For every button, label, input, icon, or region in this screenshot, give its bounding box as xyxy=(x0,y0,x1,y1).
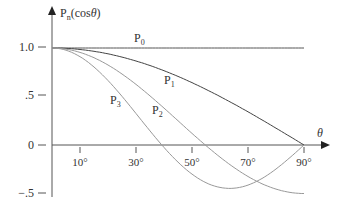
x-ticks: 10° 30° 50° 70° 90° xyxy=(72,147,311,168)
y-tick-label: .5 xyxy=(25,88,34,102)
series-p3-label: P3 xyxy=(110,93,121,109)
y-ticks: 1.0 .5 0 −.5 xyxy=(18,40,46,200)
series-p1-line xyxy=(52,48,304,145)
curves xyxy=(52,48,304,194)
y-tick-label: −.5 xyxy=(18,186,34,200)
y-tick-label: 1.0 xyxy=(19,40,34,54)
series-p0-label: P0 xyxy=(134,31,145,47)
legendre-polynomial-chart: 1.0 .5 0 −.5 10° 30° 50° 70° 90° Pn(cosθ… xyxy=(0,0,343,206)
y-tick-label: 0 xyxy=(28,138,34,152)
x-tick-label: 10° xyxy=(72,156,87,168)
y-axis-label: Pn(cosθ) xyxy=(60,6,101,22)
x-tick-label: 30° xyxy=(128,156,143,168)
x-axis-arrow-icon xyxy=(321,141,330,149)
x-tick-label: 70° xyxy=(240,156,255,168)
x-tick-label: 90° xyxy=(296,156,311,168)
y-axis-arrow-icon xyxy=(48,6,56,15)
series-p1-label: P1 xyxy=(164,73,175,89)
x-axis-label: θ xyxy=(317,126,323,140)
series-p3-line xyxy=(52,48,304,188)
x-tick-label: 50° xyxy=(184,156,199,168)
series-p2-line xyxy=(52,48,304,194)
